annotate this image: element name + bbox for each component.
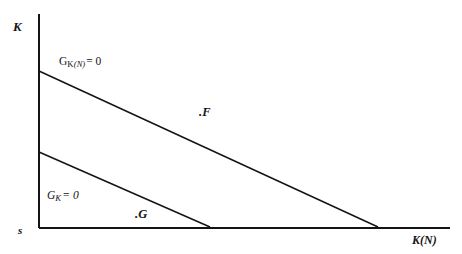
plot-canvas [0, 0, 462, 254]
curve-gkn-zero [39, 71, 378, 227]
curve-gkn-zero-label: GK(N)= 0 [59, 56, 101, 69]
curve-gk-zero-label-eq: = 0 [62, 189, 78, 201]
y-axis-label: K [13, 20, 22, 33]
economics-phase-diagram: K s K(N) GK(N)= 0 GK= 0 .F .G [0, 0, 462, 254]
curve-gkn-zero-label-sub-n: (N) [74, 59, 85, 69]
curve-gkn-zero-label-eq: = 0 [86, 55, 101, 67]
point-f-label: .F [199, 106, 210, 119]
point-g-label: .G [135, 208, 147, 221]
origin-label: s [18, 225, 22, 236]
curve-gk-zero-label-sub-k: K [55, 193, 61, 203]
curve-gk-zero-label: GK= 0 [47, 190, 79, 203]
x-axis-label: K(N) [412, 234, 437, 246]
